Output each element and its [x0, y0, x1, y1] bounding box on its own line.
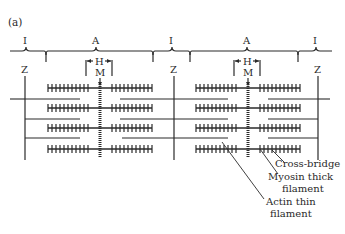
- a-band-label-2: A: [243, 35, 250, 46]
- h-zone-label-1: H: [95, 56, 104, 67]
- cross-bridge-label: Cross-bridge: [275, 158, 340, 169]
- z-line-label-2: Z: [170, 64, 177, 75]
- z-line-label-3: Z: [314, 64, 321, 75]
- m-line-label-2: M: [243, 67, 253, 78]
- m-line-label-1: M: [95, 67, 105, 78]
- h-zone-label-2: H: [243, 56, 252, 67]
- myosin-label-line1: Myosin thick: [268, 171, 333, 182]
- i-band-label-1: I: [23, 35, 27, 46]
- actin-filaments: [10, 99, 330, 138]
- myosin-label-line2: filament: [282, 183, 324, 194]
- actin-label-line2: filament: [270, 208, 312, 219]
- a-band-label-1: A: [92, 35, 99, 46]
- z-line-label-1: Z: [21, 64, 28, 75]
- i-band-label-3: I: [313, 35, 317, 46]
- actin-label-line1: Actin thin: [266, 196, 316, 207]
- i-band-label-2: I: [169, 35, 173, 46]
- band-brace: [10, 47, 332, 55]
- panel-label: (a): [8, 17, 22, 28]
